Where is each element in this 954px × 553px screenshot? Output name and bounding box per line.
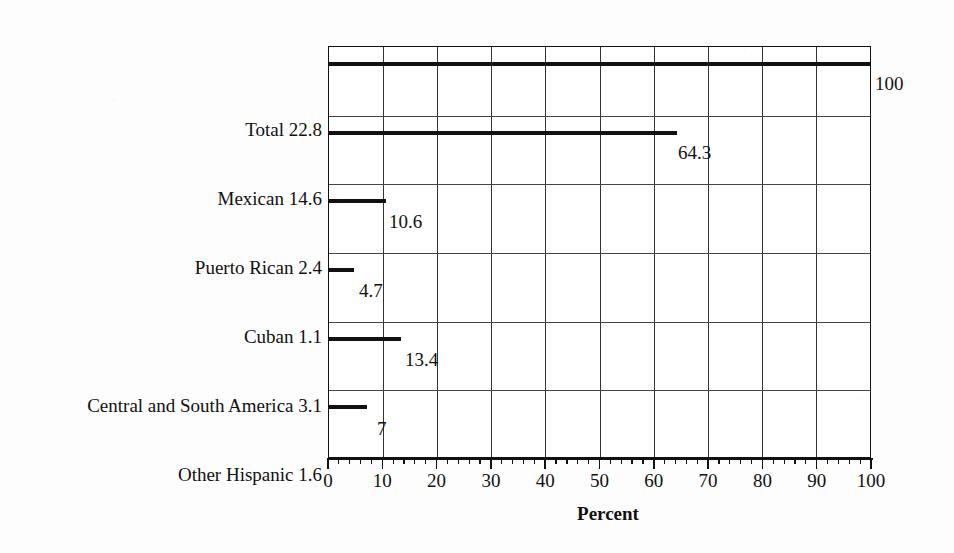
row-separator-4	[329, 322, 870, 323]
plot-area	[328, 46, 871, 458]
bar-value-total: 100	[875, 74, 904, 93]
x-tick-minor	[838, 458, 839, 464]
x-tick-minor	[555, 458, 556, 464]
x-tick-minor	[447, 458, 448, 464]
category-axis-labels: Total 22.8 Mexican 14.6 Puerto Rican 2.4…	[0, 46, 322, 458]
x-tick-major	[816, 458, 818, 469]
bar-total	[329, 62, 870, 66]
x-tick-minor	[642, 458, 643, 464]
x-tick-minor	[534, 458, 535, 464]
x-axis-title-text: Percent	[577, 503, 639, 525]
gridline-x-60	[654, 47, 655, 457]
x-tick-minor	[849, 458, 850, 464]
row-separator-3	[329, 253, 870, 254]
x-tick-label: 60	[644, 471, 663, 490]
x-tick-major	[762, 458, 764, 469]
x-tick-major	[436, 458, 438, 469]
x-tick-minor	[523, 458, 524, 464]
gridline-x-70	[708, 47, 709, 457]
x-tick-minor	[686, 458, 687, 464]
x-tick-minor	[414, 458, 415, 464]
x-tick-minor	[860, 458, 861, 464]
category-label-puerto-rican: Puerto Rican 2.4	[2, 258, 322, 277]
bar-value-cuban: 4.7	[359, 281, 383, 300]
category-label-central-south-america: Central and South America 3.1	[2, 396, 322, 415]
gridline-x-80	[762, 47, 763, 457]
x-tick-label: 10	[373, 471, 392, 490]
x-tick-minor	[425, 458, 426, 464]
x-tick-minor	[773, 458, 774, 464]
x-tick-minor	[403, 458, 404, 464]
category-label-cuban: Cuban 1.1	[2, 327, 322, 346]
x-tick-minor	[784, 458, 785, 464]
gridline-x-20	[437, 47, 438, 457]
gridline-x-30	[491, 47, 492, 457]
category-label-other-hispanic: Other Hispanic 1.6	[2, 465, 322, 484]
bar-other-hispanic	[329, 405, 367, 409]
x-tick-major	[653, 458, 655, 469]
x-axis-title: Percent	[0, 503, 954, 525]
x-tick-label: 100	[857, 471, 886, 490]
category-label-mexican: Mexican 14.6	[2, 189, 322, 208]
gridline-x-40	[545, 47, 546, 457]
x-tick-minor	[621, 458, 622, 464]
bar-value-mexican: 64.3	[678, 143, 711, 162]
bar-mexican	[329, 131, 677, 135]
gridline-x-50	[600, 47, 601, 457]
x-tick-minor	[512, 458, 513, 464]
x-tick-major	[870, 458, 872, 469]
x-tick-minor	[469, 458, 470, 464]
x-tick-minor	[458, 458, 459, 464]
x-axis-line	[328, 458, 873, 460]
gridline-x-90	[816, 47, 817, 457]
bar-value-other-hispanic: 7	[377, 419, 387, 438]
x-tick-minor	[794, 458, 795, 464]
bar-cuban	[329, 268, 354, 272]
x-tick-label: 20	[427, 471, 446, 490]
x-tick-label: 50	[590, 471, 609, 490]
x-tick-minor	[501, 458, 502, 464]
x-tick-minor	[349, 458, 350, 464]
x-tick-label: 30	[481, 471, 500, 490]
hispanic-origin-bar-chart: Total 22.8 Mexican 14.6 Puerto Rican 2.4…	[0, 0, 954, 553]
x-tick-minor	[827, 458, 828, 464]
x-tick-minor	[566, 458, 567, 464]
x-tick-minor	[631, 458, 632, 464]
row-separator-5	[329, 390, 870, 391]
x-tick-minor	[805, 458, 806, 464]
x-tick-major	[544, 458, 546, 469]
x-tick-minor	[479, 458, 480, 464]
x-tick-minor	[371, 458, 372, 464]
x-tick-major	[707, 458, 709, 469]
x-tick-major	[490, 458, 492, 469]
x-tick-minor	[338, 458, 339, 464]
x-tick-minor	[360, 458, 361, 464]
x-tick-major	[327, 458, 329, 469]
x-tick-label: 40	[536, 471, 555, 490]
x-tick-minor	[697, 458, 698, 464]
x-tick-minor	[610, 458, 611, 464]
category-label-total: Total 22.8	[2, 120, 322, 139]
row-separator-1	[329, 116, 870, 117]
x-tick-label: 90	[807, 471, 826, 490]
x-tick-major	[599, 458, 601, 469]
x-tick-minor	[751, 458, 752, 464]
bar-value-puerto-rican: 10.6	[389, 212, 422, 231]
x-tick-label: 70	[699, 471, 718, 490]
x-tick-major	[382, 458, 384, 469]
x-tick-minor	[393, 458, 394, 464]
x-tick-minor	[729, 458, 730, 464]
bar-central-south-america	[329, 337, 401, 341]
x-tick-minor	[664, 458, 665, 464]
x-tick-minor	[588, 458, 589, 464]
x-tick-label: 80	[753, 471, 772, 490]
x-tick-label: 0	[323, 471, 333, 490]
x-tick-minor	[577, 458, 578, 464]
bar-puerto-rican	[329, 199, 386, 203]
x-tick-minor	[740, 458, 741, 464]
gridline-x-10	[383, 47, 384, 457]
bar-value-central-south-america: 13.4	[405, 350, 438, 369]
row-separator-2	[329, 184, 870, 185]
x-tick-minor	[718, 458, 719, 464]
x-tick-minor	[675, 458, 676, 464]
